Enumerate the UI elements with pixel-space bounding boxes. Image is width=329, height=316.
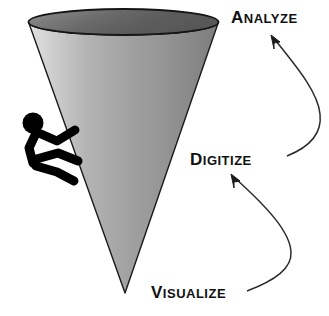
arrow-visualize-to-digitize-line [236,179,291,291]
stage-label-digitize-remainder: IGITIZE [203,153,252,168]
diagram-canvas: ANALYZE DIGITIZE VISUALIZE [0,0,329,316]
climber-upper-leg [33,153,78,161]
stage-label-digitize: DIGITIZE [190,151,252,168]
stage-label-analyze: ANALYZE [231,9,298,26]
climber-lower-leg [36,166,74,181]
arrow-digitize-to-analyze [271,35,320,156]
stage-label-analyze-initial: A [231,8,244,27]
cone-diagram-graphics [0,0,329,316]
stage-label-visualize-initial: V [151,283,163,302]
stage-label-digitize-initial: D [190,150,203,169]
cone-rim-ellipse [29,9,219,35]
stage-label-analyze-remainder: NALYZE [244,11,298,26]
arrow-digitize-to-analyze-head [271,35,280,49]
arrow-visualize-to-digitize-head [231,174,240,188]
arrow-digitize-to-analyze-line [276,41,320,156]
stage-label-visualize-remainder: ISUALIZE [163,286,226,301]
arrow-visualize-to-digitize [231,174,291,291]
stage-label-visualize: VISUALIZE [151,284,226,301]
